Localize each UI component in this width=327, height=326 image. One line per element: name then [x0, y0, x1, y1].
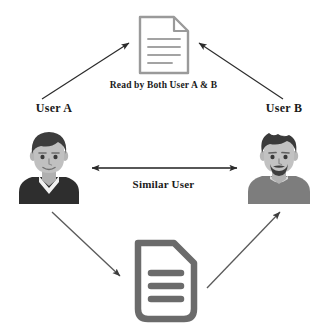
document-icon-top[interactable]: [136, 14, 192, 76]
diagram-canvas: Read by Both User A & B User A User B Si…: [0, 0, 327, 326]
edge-user-a-to-doc-top: [42, 43, 129, 99]
document-outline: [138, 243, 194, 319]
avatar-brow-right: [282, 153, 289, 154]
avatar-eye-right: [53, 155, 57, 160]
label-user-b: User B: [243, 101, 325, 116]
label-similar-user: Similar User: [0, 178, 327, 190]
label-user-a: User A: [2, 101, 106, 116]
avatar-brow-left: [269, 153, 276, 154]
edge-user-b-to-doc-top: [199, 43, 283, 99]
document-outline: [140, 17, 188, 73]
avatar-user-a[interactable]: [13, 126, 85, 204]
label-read-by-both: Read by Both User A & B: [0, 80, 327, 90]
document-icon-bottom[interactable]: [124, 239, 203, 323]
edge-doc-bottom-to-user-b: [207, 212, 280, 288]
avatar-eye-left: [40, 155, 44, 160]
avatar-eye-left: [270, 155, 274, 160]
edge-user-a-to-doc-bottom: [52, 212, 120, 276]
avatar-user-b[interactable]: [243, 126, 315, 204]
avatar-eye-right: [283, 155, 287, 160]
